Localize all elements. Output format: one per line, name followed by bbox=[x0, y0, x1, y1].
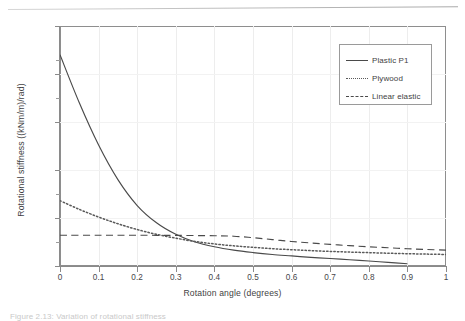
y-axis-minor-tick bbox=[56, 60, 60, 61]
x-axis-tick bbox=[253, 267, 254, 272]
x-axis-tick-label: 0.4 bbox=[209, 273, 221, 282]
x-axis-tick bbox=[99, 267, 100, 272]
legend-key-dashed-icon bbox=[346, 92, 368, 101]
x-axis-title: Rotation angle (degrees) bbox=[0, 288, 465, 298]
x-axis-tick-label: 0.1 bbox=[93, 273, 105, 282]
y-axis-tick bbox=[55, 218, 60, 219]
legend-item-plastic-p1: Plastic P1 bbox=[346, 51, 427, 69]
page-rule-artifact bbox=[8, 6, 458, 10]
x-axis-tick-label: 0.2 bbox=[131, 273, 143, 282]
x-axis-tick-label: 0 bbox=[58, 273, 63, 282]
series-line-plywood bbox=[60, 201, 446, 255]
x-axis-tick bbox=[137, 267, 138, 272]
y-axis-minor-tick bbox=[56, 194, 60, 195]
y-axis-minor-tick bbox=[56, 242, 60, 243]
legend: Plastic P1 Plywood Linear elastic bbox=[339, 44, 432, 105]
y-axis-tick bbox=[55, 26, 60, 27]
legend-label-plastic-p1: Plastic P1 bbox=[372, 56, 409, 65]
y-axis-title-text: Rotational stiffness ((kNm/m)/rad) bbox=[16, 83, 26, 216]
x-axis-tick bbox=[330, 267, 331, 272]
x-axis-tick-label: 0.9 bbox=[402, 273, 414, 282]
x-axis-tick bbox=[292, 267, 293, 272]
y-axis-line bbox=[59, 26, 60, 267]
legend-label-linear-elastic: Linear elastic bbox=[372, 92, 421, 101]
x-axis-tick bbox=[176, 267, 177, 272]
x-axis-tick-label: 0.8 bbox=[363, 273, 375, 282]
x-axis-tick-label: 0.6 bbox=[286, 273, 298, 282]
x-axis-tick-label: 0.3 bbox=[170, 273, 182, 282]
legend-item-plywood: Plywood bbox=[346, 69, 427, 87]
legend-label-plywood: Plywood bbox=[372, 74, 403, 83]
y-axis-tick bbox=[55, 74, 60, 75]
x-axis-tick bbox=[60, 267, 61, 272]
legend-key-solid-icon bbox=[346, 56, 368, 65]
x-axis-tick bbox=[446, 267, 447, 272]
y-axis-title: Rotational stiffness ((kNm/m)/rad) bbox=[14, 50, 28, 250]
x-axis-tick bbox=[214, 267, 215, 272]
series-line-linear-elastic bbox=[60, 235, 446, 250]
figure-caption: Figure 2.13: Variation of rotational sti… bbox=[10, 312, 166, 321]
x-axis-tick-label: 0.5 bbox=[247, 273, 259, 282]
legend-key-dotted-icon bbox=[346, 74, 368, 83]
legend-item-linear-elastic: Linear elastic bbox=[346, 87, 427, 105]
x-axis-tick-label: 0.7 bbox=[324, 273, 336, 282]
x-axis-tick bbox=[407, 267, 408, 272]
y-axis-minor-tick bbox=[56, 98, 60, 99]
x-axis-title-text: Rotation angle (degrees) bbox=[183, 288, 281, 298]
y-axis-tick bbox=[55, 122, 60, 123]
x-axis-tick bbox=[369, 267, 370, 272]
x-axis-tick-label: 1 bbox=[444, 273, 449, 282]
y-axis-tick bbox=[55, 170, 60, 171]
